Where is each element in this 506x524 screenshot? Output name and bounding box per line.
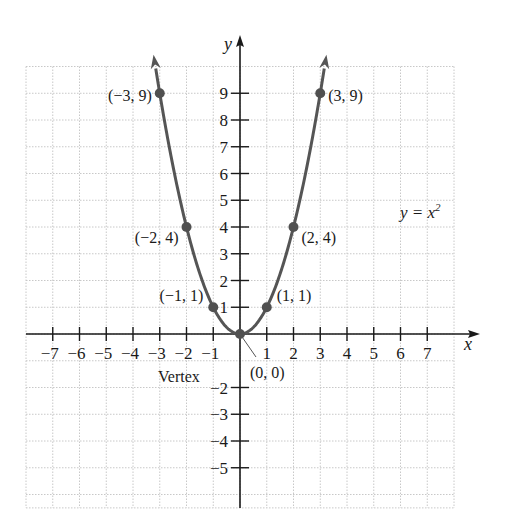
x-tick-label: 2 (289, 344, 298, 363)
equation-exponent: 2 (435, 201, 441, 213)
equation-main: y = x (398, 203, 436, 222)
x-tick-label: −5 (94, 344, 112, 363)
point-label: (3, 9) (328, 87, 363, 105)
data-point-marker (208, 302, 218, 312)
y-tick-label: 1 (220, 298, 229, 317)
point-label: (−2, 4) (135, 229, 179, 247)
x-tick-label: 5 (370, 344, 379, 363)
point-label: (−3, 9) (108, 87, 152, 105)
x-tick-label: 4 (343, 344, 352, 363)
y-tick-label: −3 (210, 405, 228, 424)
x-tick-label: −3 (148, 344, 166, 363)
x-tick-label: −7 (41, 344, 60, 363)
y-tick-label: 5 (220, 191, 229, 210)
x-axis-label: x (463, 334, 472, 354)
vertex-label: Vertex (158, 368, 200, 385)
x-tick-label: −6 (67, 344, 85, 363)
data-point-marker (289, 222, 299, 232)
y-tick-label: 6 (220, 165, 229, 184)
point-label: (−1, 1) (160, 287, 204, 305)
y-axis-label: y (222, 34, 232, 54)
vertex-pointer-line (240, 334, 256, 357)
data-point-marker (262, 302, 272, 312)
point-label: (2, 4) (302, 229, 337, 247)
x-tick-label: −2 (174, 344, 192, 363)
x-tick-label: 3 (316, 344, 325, 363)
x-tick-label: −1 (201, 344, 219, 363)
y-tick-label: −4 (210, 432, 229, 451)
y-tick-label: −5 (210, 459, 228, 478)
x-tick-label: 1 (263, 344, 272, 363)
point-label: (1, 1) (277, 287, 312, 305)
curve-arrow-right-icon (319, 55, 329, 70)
y-tick-label: 4 (220, 218, 229, 237)
data-point-marker (315, 88, 325, 98)
y-tick-label: 8 (220, 111, 229, 130)
parabola-chart: −7−6−5−4−3−2−11234567−5−4−3−2123456789 (… (0, 0, 506, 524)
equation-label: y = x2 (398, 201, 441, 222)
y-tick-label: −2 (210, 379, 228, 398)
curve-arrow-left-icon (151, 55, 161, 70)
y-tick-label: 7 (220, 138, 229, 157)
x-tick-label: 6 (396, 344, 405, 363)
data-point-marker (182, 222, 192, 232)
y-tick-label: 9 (220, 84, 229, 103)
origin-point-label: (0, 0) (250, 364, 285, 382)
x-tick-label: 7 (423, 344, 432, 363)
axes (26, 35, 480, 508)
y-tick-label: 3 (220, 245, 229, 264)
x-tick-label: −4 (121, 344, 140, 363)
data-point-marker (155, 88, 165, 98)
y-tick-label: 2 (220, 272, 229, 291)
